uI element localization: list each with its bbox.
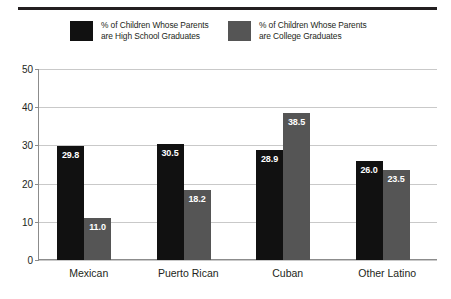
bar-group: 30.518.2Puerto Rican [139, 69, 239, 260]
bar-group: 26.023.5Other Latino [338, 69, 438, 260]
bar-high-school[interactable]: 30.5 [157, 144, 184, 261]
bar-value-label: 38.5 [283, 117, 310, 127]
legend-label-1: % of Children Whose Parents are College … [259, 20, 367, 41]
bar-value-label: 18.2 [184, 194, 211, 204]
bar-high-school[interactable]: 28.9 [256, 150, 283, 260]
bar-group: 28.938.5Cuban [238, 69, 338, 260]
bar-group: 29.811.0Mexican [39, 69, 139, 260]
legend-swatch-1 [228, 21, 251, 41]
bar-value-label: 28.9 [256, 154, 283, 164]
bar-college[interactable]: 11.0 [84, 218, 111, 260]
y-axis-tick-label: 0 [27, 255, 33, 266]
x-axis-category-label: Other Latino [338, 267, 438, 279]
y-axis-tick-label: 20 [22, 178, 33, 189]
y-axis-tick-label: 30 [22, 140, 33, 151]
bar-college[interactable]: 18.2 [184, 190, 211, 260]
bar-value-label: 30.5 [157, 148, 184, 158]
y-axis-tick-label: 50 [22, 64, 33, 75]
bar-high-school[interactable]: 29.8 [57, 146, 84, 260]
plot-area: 0102030405029.811.0Mexican30.518.2Puerto… [39, 69, 437, 260]
bar-high-school[interactable]: 26.0 [356, 161, 383, 260]
bar-chart-figure: % of Children Whose Parents are High Sch… [0, 0, 451, 299]
bar-college[interactable]: 38.5 [283, 113, 310, 260]
y-axis-tick-label: 40 [22, 102, 33, 113]
bar-value-label: 26.0 [356, 165, 383, 175]
bar-value-label: 11.0 [84, 222, 111, 232]
x-axis-category-label: Mexican [39, 267, 139, 279]
legend-swatch-0 [70, 21, 93, 41]
header-rule [18, 7, 437, 10]
y-tick-mark-0 [35, 260, 39, 261]
chart-legend: % of Children Whose Parents are High Sch… [70, 20, 430, 52]
legend-label-0: % of Children Whose Parents are High Sch… [101, 20, 209, 41]
gridline-0 [39, 260, 437, 261]
legend-entry-1[interactable]: % of Children Whose Parents are College … [228, 20, 367, 41]
bar-value-label: 29.8 [57, 150, 84, 160]
y-axis-tick-label: 10 [22, 216, 33, 227]
x-axis-category-label: Cuban [238, 267, 338, 279]
bar-college[interactable]: 23.5 [383, 170, 410, 260]
bar-value-label: 23.5 [383, 174, 410, 184]
legend-entry-0[interactable]: % of Children Whose Parents are High Sch… [70, 20, 209, 41]
x-axis-category-label: Puerto Rican [139, 267, 239, 279]
